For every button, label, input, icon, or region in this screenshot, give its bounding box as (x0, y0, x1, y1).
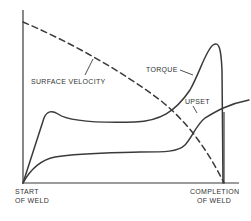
start-of-weld-label-line2: OF WELD (15, 197, 49, 204)
surface-velocity-label: SURFACE VELOCITY (31, 78, 105, 85)
completion-of-weld-label-line1: COMPLETION (190, 188, 239, 195)
surface-velocity-leader (85, 59, 93, 75)
torque-label: TORQUE (146, 66, 178, 74)
upset-label: UPSET (185, 98, 210, 105)
start-of-weld-label-line1: START (15, 188, 39, 195)
upset-leader (193, 106, 197, 113)
torque-leader (180, 70, 193, 75)
weld-process-diagram: SURFACE VELOCITY TORQUE UPSET START OF W… (0, 0, 251, 221)
upset-curve (23, 100, 249, 183)
completion-of-weld-label-line2: OF WELD (197, 197, 231, 204)
torque-curve (23, 44, 223, 183)
